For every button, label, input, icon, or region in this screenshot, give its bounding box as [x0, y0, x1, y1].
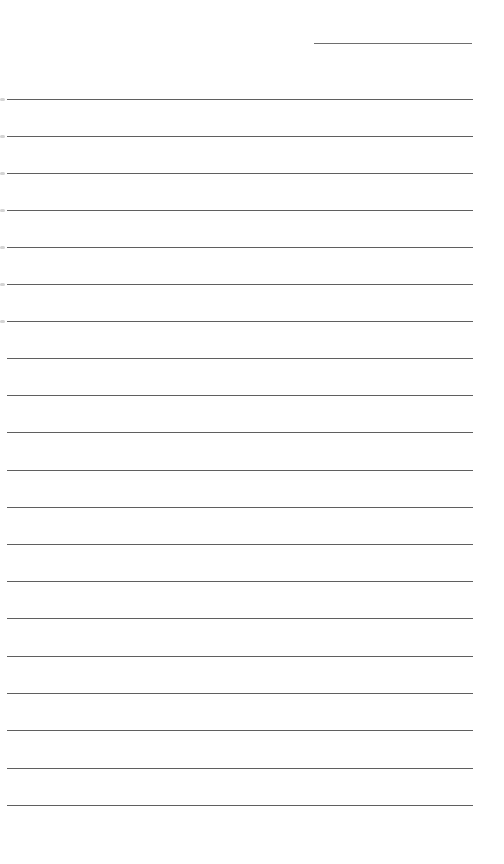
margin-mark-icon: [0, 283, 5, 286]
margin-mark-icon: [0, 246, 5, 249]
ruled-line: [7, 210, 473, 211]
ruled-line: [7, 618, 473, 619]
ruled-line: [7, 693, 473, 694]
ruled-line: [7, 730, 473, 731]
margin-mark-icon: [0, 135, 5, 138]
ruled-line: [7, 768, 473, 769]
margin-mark-icon: [0, 98, 5, 101]
ruled-line: [7, 136, 473, 137]
ruled-line: [7, 581, 473, 582]
date-line: [314, 43, 472, 44]
ruled-line: [7, 99, 473, 100]
ruled-line: [7, 544, 473, 545]
ruled-line: [7, 656, 473, 657]
lined-paper-page: [0, 0, 504, 864]
margin-mark-icon: [0, 209, 5, 212]
ruled-line: [7, 395, 473, 396]
ruled-line: [7, 284, 473, 285]
ruled-line: [7, 173, 473, 174]
ruled-line: [7, 358, 473, 359]
ruled-line: [7, 247, 473, 248]
margin-mark-icon: [0, 172, 5, 175]
ruled-line: [7, 432, 473, 433]
ruled-line: [7, 470, 473, 471]
ruled-line: [7, 321, 473, 322]
margin-mark-icon: [0, 320, 5, 323]
ruled-line: [7, 805, 473, 806]
ruled-line: [7, 507, 473, 508]
